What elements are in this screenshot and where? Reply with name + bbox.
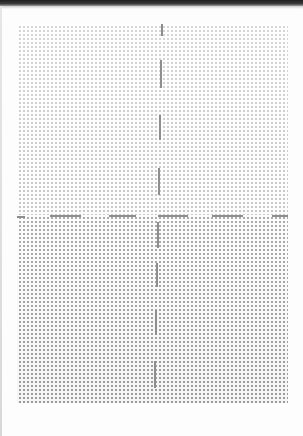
page-left-edge	[0, 6, 2, 436]
horizontal-dash-segment	[272, 215, 288, 217]
vertical-dash-segment	[156, 263, 158, 287]
vertical-dash-segment	[154, 361, 156, 388]
horizontal-dash-segment	[17, 216, 25, 218]
vertical-dash-segment	[159, 115, 161, 140]
dot-grid-upper-half	[17, 24, 288, 215]
dot-grid-page	[0, 0, 303, 436]
horizontal-dash-segment	[158, 215, 188, 217]
vertical-dash-segment	[161, 24, 163, 36]
vertical-dash-segment	[157, 222, 159, 248]
horizontal-dash-segment	[50, 215, 81, 217]
vertical-dash-segment	[160, 60, 162, 88]
vertical-dash-segment	[158, 168, 160, 195]
horizontal-dash-segment	[212, 215, 243, 217]
scanner-top-shadow	[0, 6, 303, 9]
dot-grid-lower-half	[17, 215, 288, 403]
horizontal-dash-segment	[109, 215, 136, 217]
vertical-dash-segment	[155, 310, 157, 335]
